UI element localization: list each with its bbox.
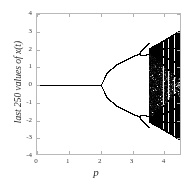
- y-tick-3: [177, 32, 180, 33]
- y-tick--2: [177, 121, 180, 122]
- y-tick-0: [177, 85, 180, 86]
- x-tick-2: [101, 14, 102, 17]
- x-tick-label-4: 4: [156, 157, 170, 165]
- y-tick-1: [177, 67, 180, 68]
- x-tick-label-3: 3: [125, 157, 139, 165]
- bifurcation-figure: 01234 43210-1-2-3-4 p last 250 values of…: [0, 0, 192, 187]
- x-tick-1: [69, 14, 70, 17]
- x-tick-0: [37, 151, 38, 154]
- x-tick-4: [164, 151, 165, 154]
- bifurcation-canvas: [37, 14, 181, 155]
- x-tick-label-1: 1: [61, 157, 75, 165]
- y-tick-1: [37, 67, 40, 68]
- y-tick-0: [37, 85, 40, 86]
- y-tick-3: [37, 32, 40, 33]
- y-tick-4: [37, 14, 40, 15]
- x-tick-4: [164, 14, 165, 17]
- y-tick-2: [37, 50, 40, 51]
- plot-canvas-host: [37, 14, 180, 154]
- x-tick-1: [69, 151, 70, 154]
- x-axis-title: p: [0, 166, 192, 178]
- y-tick--1: [177, 103, 180, 104]
- x-tick-3: [133, 151, 134, 154]
- x-tick-3: [133, 14, 134, 17]
- y-tick-label--4: -4: [18, 151, 32, 159]
- y-tick--3: [177, 138, 180, 139]
- y-axis-title: last 250 values of x(t): [13, 12, 23, 152]
- plot-area: [36, 13, 181, 155]
- y-tick--2: [37, 121, 40, 122]
- x-tick-label-2: 2: [93, 157, 107, 165]
- y-tick-4: [177, 14, 180, 15]
- x-tick-2: [101, 151, 102, 154]
- y-tick-2: [177, 50, 180, 51]
- y-tick--1: [37, 103, 40, 104]
- y-tick--3: [37, 138, 40, 139]
